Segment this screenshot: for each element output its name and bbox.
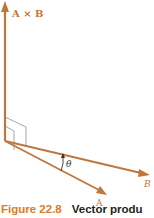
vector-a xyxy=(5,141,107,195)
vector-b-label: B xyxy=(143,179,151,189)
cross-product-label: A × B xyxy=(11,8,44,19)
vector-b xyxy=(5,141,150,177)
arrowhead-icon xyxy=(96,186,107,195)
angle-theta-label: θ xyxy=(66,159,72,169)
figure-caption: Figure 22.8Vector produ xyxy=(1,203,143,215)
cross-product-vector xyxy=(1,1,9,141)
caption-title: Vector produ xyxy=(72,203,143,215)
cross-product-diagram: A × B B A θ xyxy=(0,0,154,218)
arrowhead-icon xyxy=(138,169,150,177)
caption-number: Figure 22.8 xyxy=(1,203,62,215)
arrowhead-icon xyxy=(1,1,9,12)
